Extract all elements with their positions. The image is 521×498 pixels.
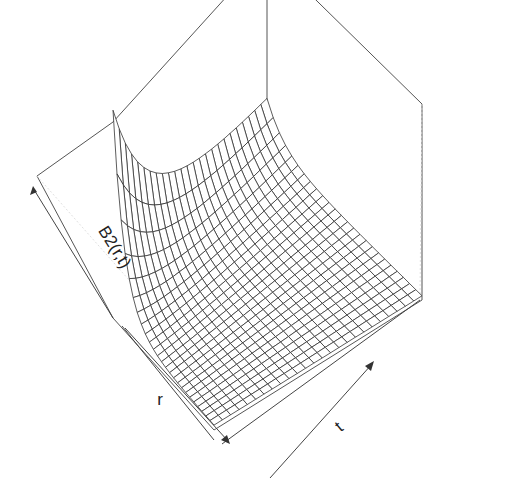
box-left-vertical-edge <box>37 176 113 318</box>
t-axis-arrowhead-icon <box>365 361 374 371</box>
box-top-right-edge <box>267 0 422 104</box>
t-axis-label: t <box>331 418 347 436</box>
z-axis-arrow <box>33 188 113 318</box>
surface-mesh <box>113 98 422 425</box>
box-top-left-edge <box>113 0 267 122</box>
persp-surface-plot: B2(r,t) r t <box>0 0 521 498</box>
box-left-top-edge <box>37 122 113 176</box>
r-axis-label: r <box>157 390 163 409</box>
